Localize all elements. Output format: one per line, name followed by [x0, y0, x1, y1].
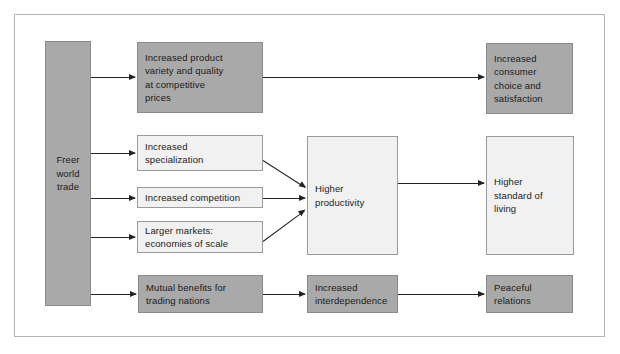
- edge-specialization-to-productivity: [263, 160, 306, 188]
- node-label-higher-productivity: Higher productivity: [315, 182, 364, 209]
- node-label-increased-interdependence: Increased interdependence: [315, 281, 387, 308]
- node-label-increased-consumer-choice: Increased consumer choice and satisfacti…: [494, 52, 543, 106]
- node-label-freer-world-trade: Freer world trade: [56, 153, 79, 194]
- edge-trade-to-larger-markets: [91, 237, 135, 238]
- edge-trade-to-competition: [91, 198, 135, 199]
- node-freer-world-trade: Freer world trade: [45, 41, 91, 306]
- node-larger-markets: Larger markets: economies of scale: [137, 221, 263, 253]
- node-increased-product-variety: Increased product variety and quality at…: [137, 42, 263, 113]
- edge-trade-to-specialization: [91, 153, 135, 154]
- edge-product-variety-to-consumer-choice: [263, 77, 484, 78]
- node-label-larger-markets: Larger markets: economies of scale: [145, 224, 228, 251]
- node-mutual-benefits: Mutual benefits for trading nations: [138, 275, 263, 313]
- node-increased-interdependence: Increased interdependence: [307, 275, 398, 313]
- edge-productivity-to-standard-of-living: [398, 183, 484, 184]
- node-label-increased-specialization: Increased specialization: [145, 140, 203, 167]
- node-label-higher-standard-of-living: Higher standard of living: [494, 175, 543, 216]
- edge-trade-to-product-variety: [91, 77, 135, 78]
- node-higher-productivity: Higher productivity: [307, 136, 398, 255]
- edge-mutual-benefits-to-interdependence: [263, 294, 305, 295]
- diagram-canvas: Freer world trade Increased product vari…: [0, 0, 620, 354]
- node-increased-competition: Increased competition: [137, 187, 263, 208]
- edge-larger-markets-to-productivity: [263, 210, 305, 242]
- node-label-mutual-benefits: Mutual benefits for trading nations: [146, 281, 226, 308]
- edge-interdependence-to-peaceful-relations: [398, 294, 484, 295]
- node-label-increased-product-variety: Increased product variety and quality at…: [145, 51, 223, 105]
- node-increased-consumer-choice: Increased consumer choice and satisfacti…: [486, 43, 573, 114]
- node-label-peaceful-relations: Peaceful relations: [494, 281, 532, 308]
- node-increased-specialization: Increased specialization: [137, 135, 263, 171]
- node-higher-standard-of-living: Higher standard of living: [486, 136, 574, 255]
- diagram-frame: Freer world trade Increased product vari…: [14, 14, 605, 337]
- edge-trade-to-mutual-benefits: [91, 294, 136, 295]
- edge-competition-to-productivity: [263, 198, 305, 199]
- node-label-increased-competition: Increased competition: [145, 191, 240, 205]
- node-peaceful-relations: Peaceful relations: [486, 275, 573, 313]
